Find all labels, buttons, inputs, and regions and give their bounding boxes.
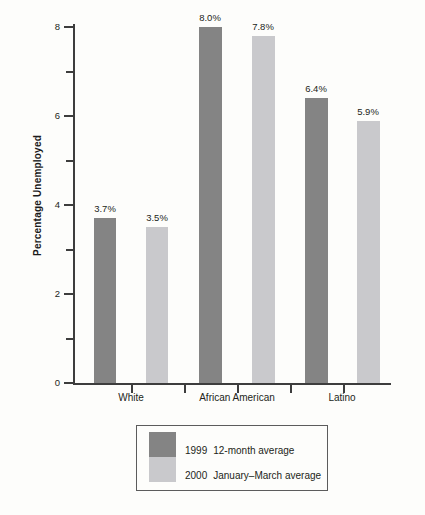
bar-value-latino-2000: 5.9% <box>348 106 388 117</box>
legend-label-2000: 2000January–March average <box>185 470 321 481</box>
bar-chart: Percentage Unemployed 8 6 4 2 0 3.7% 3.5… <box>0 0 425 515</box>
legend-year-2000: 2000 <box>185 470 207 481</box>
bar-white-2000 <box>146 227 168 383</box>
y-axis-title: Percentage Unemployed <box>32 96 43 296</box>
bar-value-white-2000: 3.5% <box>137 212 177 223</box>
bar-value-african-american-1999: 8.0% <box>190 12 230 23</box>
y-tick-minor-3 <box>66 249 74 251</box>
y-tick-minor-1 <box>66 338 74 340</box>
legend-year-1999: 1999 <box>185 445 207 456</box>
y-tick-4 <box>64 204 74 206</box>
legend-desc-1999: 12-month average <box>213 445 294 456</box>
legend-swatch-1999 <box>149 432 176 457</box>
category-label-african-american: African American <box>177 392 297 403</box>
legend-swatch-2000 <box>149 457 176 482</box>
category-label-white: White <box>91 392 171 403</box>
y-tick-label-0: 0 <box>32 377 60 388</box>
bar-white-1999 <box>94 218 116 383</box>
y-tick-0 <box>64 382 74 384</box>
legend-desc-2000: January–March average <box>213 470 321 481</box>
y-tick-label-2: 2 <box>32 288 60 299</box>
y-tick-label-6: 6 <box>32 110 60 121</box>
y-tick-minor-5 <box>66 160 74 162</box>
bar-value-white-1999: 3.7% <box>85 203 125 214</box>
bar-latino-1999 <box>305 98 328 383</box>
y-tick-6 <box>64 115 74 117</box>
chart-legend: 199912-month average 2000January–March a… <box>136 425 328 491</box>
bar-african-american-2000 <box>252 36 275 383</box>
bar-african-american-1999 <box>199 27 222 383</box>
y-tick-minor-7 <box>66 71 74 73</box>
bar-value-latino-1999: 6.4% <box>296 83 336 94</box>
y-tick-2 <box>64 293 74 295</box>
y-tick-8 <box>64 26 74 28</box>
bar-latino-2000 <box>357 121 380 383</box>
category-label-latino: Latino <box>302 392 382 403</box>
y-tick-label-4: 4 <box>32 199 60 210</box>
legend-label-1999: 199912-month average <box>185 445 294 456</box>
bar-value-african-american-2000: 7.8% <box>243 21 283 32</box>
y-tick-label-8: 8 <box>32 21 60 32</box>
